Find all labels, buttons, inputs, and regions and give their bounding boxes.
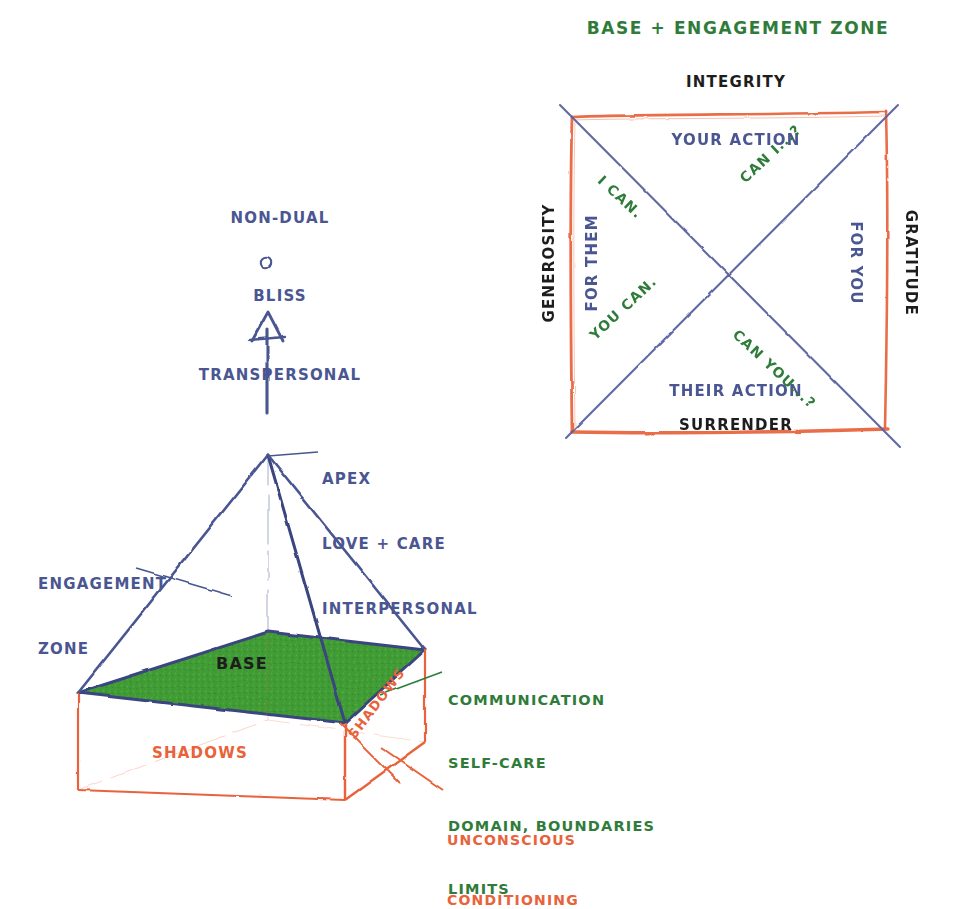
shadow-bottom-front-left xyxy=(78,790,345,800)
square-left-edge xyxy=(571,117,572,432)
label-shadows-front: SHADOWS xyxy=(152,743,248,765)
edge-label-gratitude: GRATITUDE xyxy=(899,183,921,343)
label-interpersonal: INTERPERSONAL xyxy=(322,599,478,621)
quadrant-label-for-you: FOR YOU xyxy=(844,198,866,328)
right-diagram-title: BASE + ENGAGEMENT ZONE xyxy=(548,16,928,41)
edge-label-surrender: SURRENDER xyxy=(636,415,836,437)
label-unconscious: UNCONSCIOUS xyxy=(447,830,579,850)
label-zone: ZONE xyxy=(38,639,167,661)
label-communication: COMMUNICATION xyxy=(448,690,655,711)
engagement-zone-stack: ENGAGEMENT ZONE xyxy=(38,530,167,704)
leader-unconscious xyxy=(382,748,443,790)
label-transpersonal: TRANSPERSONAL xyxy=(155,362,405,388)
apex-stack: APEX LOVE + CARE INTERPERSONAL xyxy=(322,425,478,664)
square-right-edge xyxy=(885,112,887,428)
shadow-bottom-front-right xyxy=(345,742,425,800)
label-love-care: LOVE + CARE xyxy=(322,534,478,556)
edge-label-integrity: INTEGRITY xyxy=(636,72,836,94)
square-top-edge xyxy=(572,112,886,117)
label-bliss: BLISS xyxy=(155,283,405,309)
quadrant-label-for-them: FOR THEM xyxy=(582,198,604,328)
edge-label-generosity: GENEROSITY xyxy=(539,183,561,343)
label-engagement: ENGAGEMENT xyxy=(38,574,167,596)
unconscious-conditioning-stack: UNCONSCIOUS CONDITIONING xyxy=(447,789,579,909)
transpersonal-stack: NON-DUAL BLISS TRANSPERSONAL xyxy=(155,152,405,441)
label-shadows-side: SHADOWS xyxy=(344,664,410,743)
label-apex: APEX xyxy=(322,469,478,491)
label-self-care: SELF-CARE xyxy=(448,753,655,774)
label-non-dual: NON-DUAL xyxy=(155,205,405,231)
label-conditioning: CONDITIONING xyxy=(447,890,579,909)
label-base: BASE xyxy=(216,652,268,675)
leader-apex xyxy=(268,452,318,456)
